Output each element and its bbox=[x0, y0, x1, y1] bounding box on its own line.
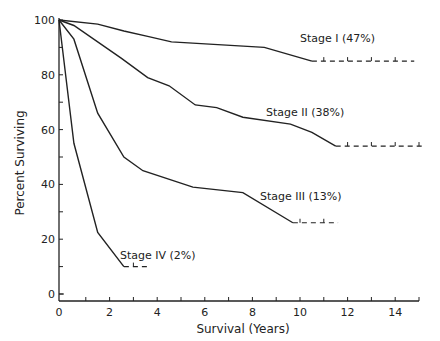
survival-chart: 02040608010002468101214 Percent Survivin… bbox=[0, 0, 440, 341]
y-tick-label: 60 bbox=[41, 124, 55, 137]
survival-curve bbox=[59, 20, 336, 146]
x-tick-label: 8 bbox=[249, 306, 256, 319]
y-tick-label: 40 bbox=[41, 178, 55, 191]
x-tick-label: 2 bbox=[106, 306, 113, 319]
axes: 02040608010002468101214 bbox=[34, 14, 419, 319]
x-tick-label: 12 bbox=[341, 306, 355, 319]
x-tick-label: 14 bbox=[388, 306, 402, 319]
stage3-label: Stage III (13%) bbox=[260, 190, 342, 203]
y-tick-label: 0 bbox=[48, 288, 55, 301]
x-tick-label: 6 bbox=[201, 306, 208, 319]
x-axis-label: Survival (Years) bbox=[196, 322, 289, 336]
y-tick-label: 100 bbox=[34, 14, 55, 27]
x-tick-label: 10 bbox=[293, 306, 307, 319]
x-tick-label: 4 bbox=[154, 306, 161, 319]
y-axis-label: Percent Surviving bbox=[13, 110, 27, 215]
stage2-label: Stage II (38%) bbox=[266, 106, 344, 119]
series-stage-4 bbox=[59, 20, 148, 267]
stage1-label: Stage I (47%) bbox=[300, 32, 375, 45]
y-tick-label: 20 bbox=[41, 233, 55, 246]
survival-curve bbox=[59, 20, 124, 267]
series-group bbox=[59, 20, 424, 267]
y-tick-label: 80 bbox=[41, 69, 55, 82]
survival-curve bbox=[59, 20, 293, 223]
stage4-label: Stage IV (2%) bbox=[120, 249, 196, 262]
x-tick-label: 0 bbox=[56, 306, 63, 319]
